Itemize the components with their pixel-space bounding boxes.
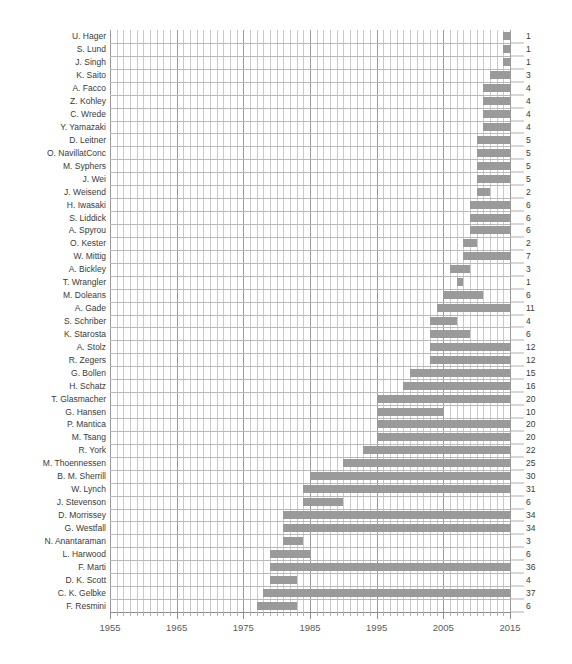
x-tick-label: 1975 xyxy=(233,622,254,633)
category-label: A. Gade xyxy=(2,303,106,313)
timeline-bar xyxy=(363,446,510,454)
bars-layer xyxy=(110,30,510,612)
x-tick-minor xyxy=(303,612,304,616)
leader-line xyxy=(510,55,524,56)
value-label: 25 xyxy=(526,458,535,468)
category-label: S. Schriber xyxy=(2,316,106,326)
value-label: 2 xyxy=(526,238,531,248)
value-labels-column: 1113444455552666273161146121215162010202… xyxy=(526,30,572,612)
category-label: S. Lund xyxy=(2,44,106,54)
timeline-bar xyxy=(477,188,490,196)
timeline-bar xyxy=(257,602,297,610)
timeline-bar xyxy=(303,498,343,506)
x-tick-major xyxy=(110,612,111,619)
x-tick-minor xyxy=(390,612,391,616)
leader-line xyxy=(510,314,524,315)
category-label: L. Harwood xyxy=(2,549,106,559)
timeline-bar xyxy=(450,265,470,273)
x-tick-label: 1995 xyxy=(366,622,387,633)
value-label: 7 xyxy=(526,251,531,261)
timeline-bar xyxy=(310,472,510,480)
category-label: A. Spyrou xyxy=(2,225,106,235)
value-label: 6 xyxy=(526,601,531,611)
value-label: 6 xyxy=(526,225,531,235)
timeline-bar xyxy=(457,278,464,286)
x-tick-major xyxy=(177,612,178,619)
category-label: K. Starosta xyxy=(2,329,106,339)
value-label: 34 xyxy=(526,510,535,520)
value-label: 6 xyxy=(526,200,531,210)
leader-line xyxy=(510,521,524,522)
timeline-bar xyxy=(483,123,510,131)
value-label: 4 xyxy=(526,96,531,106)
value-label: 4 xyxy=(526,575,531,585)
x-tick-minor xyxy=(230,612,231,616)
x-tick-minor xyxy=(450,612,451,616)
value-label: 36 xyxy=(526,562,535,572)
timeline-bar xyxy=(377,420,510,428)
x-tick-minor xyxy=(203,612,204,616)
leader-lines xyxy=(510,30,526,612)
timeline-bar xyxy=(377,408,444,416)
timeline-bar xyxy=(270,563,510,571)
category-label: T. Wrangler xyxy=(2,277,106,287)
value-label: 30 xyxy=(526,471,535,481)
x-tick-minor xyxy=(490,612,491,616)
timeline-bar xyxy=(377,433,510,441)
timeline-bar xyxy=(430,356,510,364)
x-tick-minor xyxy=(323,612,324,616)
value-label: 5 xyxy=(526,148,531,158)
category-label: A. Stolz xyxy=(2,342,106,352)
category-label: G. Westfall xyxy=(2,523,106,533)
timeline-bar xyxy=(270,550,310,558)
category-label: H. Schatz xyxy=(2,381,106,391)
x-tick-minor xyxy=(297,612,298,616)
category-label: D. Morrissey xyxy=(2,510,106,520)
category-label: W. Mittig xyxy=(2,251,106,261)
value-label: 10 xyxy=(526,407,535,417)
category-label: N. Anantaraman xyxy=(2,536,106,546)
leader-line xyxy=(510,612,524,613)
category-label: M. Thoennessen xyxy=(2,458,106,468)
timeline-bar xyxy=(483,110,510,118)
leader-line xyxy=(510,508,524,509)
category-label: W. Lynch xyxy=(2,484,106,494)
leader-line xyxy=(510,249,524,250)
x-tick-minor xyxy=(397,612,398,616)
timeline-bar xyxy=(430,330,470,338)
category-label: R. York xyxy=(2,445,106,455)
leader-line xyxy=(510,185,524,186)
category-label: J. Stevenson xyxy=(2,497,106,507)
value-label: 6 xyxy=(526,213,531,223)
category-label: P. Mantica xyxy=(2,419,106,429)
value-label: 11 xyxy=(526,303,535,313)
timeline-bar xyxy=(303,485,510,493)
x-tick-minor xyxy=(237,612,238,616)
leader-line xyxy=(510,42,524,43)
category-label: H. Iwasaki xyxy=(2,200,106,210)
category-label: C. K. Gelbke xyxy=(2,588,106,598)
category-label: C. Wrede xyxy=(2,109,106,119)
leader-line xyxy=(510,224,524,225)
leader-line xyxy=(510,547,524,548)
category-label: F. Resmini xyxy=(2,601,106,611)
timeline-bar xyxy=(470,214,510,222)
leader-line xyxy=(510,405,524,406)
x-tick-major xyxy=(310,612,311,619)
timeline-bar xyxy=(403,382,510,390)
x-tick-major xyxy=(243,612,244,619)
x-tick-minor xyxy=(357,612,358,616)
x-tick-label: 2015 xyxy=(499,622,520,633)
timeline-bar xyxy=(410,369,510,377)
timeline-bar xyxy=(477,149,510,157)
timeline-bar xyxy=(283,524,510,532)
leader-line xyxy=(510,172,524,173)
value-label: 20 xyxy=(526,419,535,429)
timeline-bar xyxy=(503,58,510,66)
x-tick-minor xyxy=(470,612,471,616)
value-label: 6 xyxy=(526,549,531,559)
category-label: A. Facco xyxy=(2,83,106,93)
timeline-bar xyxy=(270,576,297,584)
timeline-bar xyxy=(437,304,510,312)
timeline-bar xyxy=(463,239,476,247)
